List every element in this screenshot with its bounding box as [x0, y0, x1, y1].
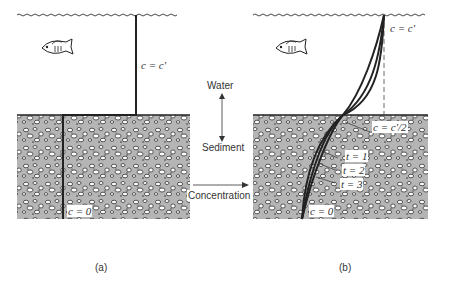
center-arrows: [193, 93, 249, 188]
label-a-sediment-conc: c = 0: [67, 205, 92, 217]
label-t3: t = 3: [340, 178, 363, 190]
caption-b: (b): [339, 262, 351, 273]
label-b-water-conc: c = c': [390, 22, 415, 34]
sediment-layer: [17, 115, 190, 219]
caption-a: (a): [95, 262, 107, 273]
fish-icon: [276, 39, 307, 54]
label-t1: t = 1: [345, 150, 368, 162]
label-sediment: Sediment: [202, 142, 244, 153]
water-surface: [253, 14, 425, 16]
label-a-water-conc: c = c': [141, 59, 166, 71]
panel-a: [17, 14, 190, 219]
water-surface: [17, 14, 177, 16]
label-water: Water: [207, 80, 233, 91]
label-concentration: Concentration: [187, 190, 251, 201]
label-t2: t = 2: [342, 164, 365, 176]
label-b-interface-conc: c = c'/2: [372, 121, 408, 133]
label-b-sediment-conc: c = 0: [309, 205, 334, 217]
fish-icon: [42, 39, 73, 54]
